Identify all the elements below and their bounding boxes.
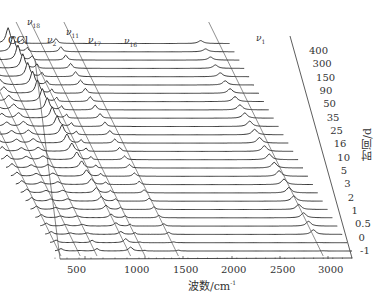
time-label: 0.5 — [355, 219, 371, 229]
traces — [0, 28, 352, 252]
time-label: 400 — [309, 46, 328, 56]
peak-annotation: CCl — [8, 36, 28, 46]
spectrum-trace — [31, 204, 328, 209]
y-axis-label-text: 时间/d — [361, 128, 374, 161]
y-axis-label: 时间/d — [362, 128, 374, 161]
x-tick-label: 1500 — [173, 265, 198, 275]
spectrum-trace — [40, 221, 337, 226]
peak-annotation: ν2 — [47, 35, 56, 49]
x-axis-line — [60, 258, 352, 259]
time-label: 1 — [351, 206, 357, 216]
x-axis-label-text: 波数/cm — [188, 280, 230, 293]
x-tick-label: 3000 — [318, 265, 343, 275]
x-axis-label: 波数/cm-1 — [188, 278, 236, 292]
time-label: 90 — [320, 86, 333, 96]
x-tick-label: 1000 — [124, 265, 149, 275]
time-label: 10 — [337, 153, 350, 163]
time-label: 300 — [313, 59, 332, 69]
spectrum-trace — [45, 230, 342, 235]
spectrum-trace — [50, 239, 347, 243]
time-label: -1 — [360, 246, 370, 256]
time-label: 2 — [348, 193, 354, 203]
time-label: 35 — [327, 113, 340, 123]
time-label: 150 — [316, 73, 335, 83]
peak-annotation: ν18 — [27, 17, 40, 31]
time-label: 16 — [334, 139, 347, 149]
peak-annotation: ν1 — [256, 33, 265, 47]
x-axis-label-sup: -1 — [230, 279, 236, 286]
time-label: 5 — [341, 166, 347, 176]
time-label: 0 — [358, 233, 364, 243]
peak-annotation: ν17 — [88, 35, 101, 49]
time-label: 50 — [323, 99, 336, 109]
time-label: 3 — [344, 179, 350, 189]
x-tick-label: 500 — [67, 265, 86, 275]
peak-annotation: ν11 — [66, 27, 79, 41]
spectrum-trace — [55, 247, 352, 251]
x-tick-label: 2500 — [270, 265, 295, 275]
time-label: 25 — [330, 126, 343, 136]
peak-annotation: ν16 — [124, 36, 137, 50]
peak-guides — [0, 22, 323, 256]
spectrum-trace — [35, 213, 332, 218]
x-tick-label: 2000 — [221, 265, 246, 275]
